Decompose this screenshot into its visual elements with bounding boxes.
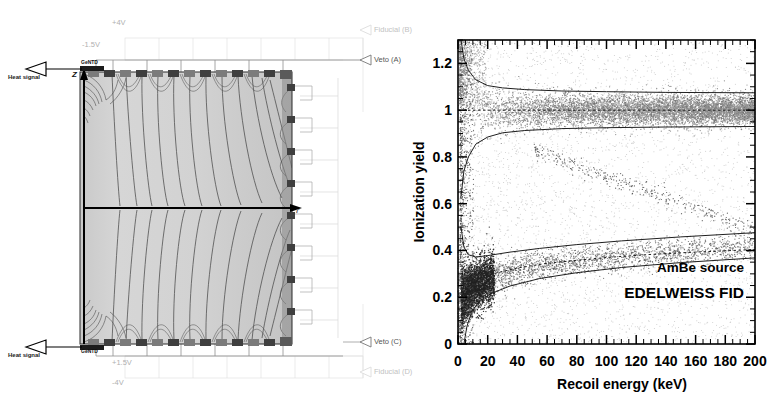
scatter-point <box>534 123 535 124</box>
scatter-point <box>542 273 543 274</box>
scatter-point <box>486 272 487 273</box>
scatter-point <box>571 62 572 63</box>
scatter-point <box>693 207 694 208</box>
scatter-point <box>492 311 493 312</box>
scatter-point <box>473 202 474 203</box>
scatter-point <box>646 104 647 105</box>
scatter-point <box>464 42 465 43</box>
scatter-point <box>464 94 465 95</box>
scatter-point <box>479 243 480 244</box>
scatter-point <box>502 102 503 103</box>
scatter-point <box>745 127 746 128</box>
scatter-point <box>486 303 487 304</box>
scatter-point <box>579 252 580 253</box>
scatter-point <box>460 316 461 317</box>
scatter-point <box>585 97 586 98</box>
scatter-point <box>464 124 465 125</box>
scatter-point <box>634 230 635 231</box>
scatter-point <box>585 106 586 107</box>
scatter-point <box>604 255 605 256</box>
scatter-point <box>658 104 659 105</box>
scatter-point <box>708 84 709 85</box>
scatter-point <box>478 72 479 73</box>
scatter-point <box>478 146 479 147</box>
scatter-point <box>500 187 501 188</box>
scatter-point <box>518 119 519 120</box>
scatter-point <box>566 111 567 112</box>
scatter-point <box>533 233 534 234</box>
scatter-point <box>689 101 690 102</box>
scatter-point <box>711 107 712 108</box>
scatter-point <box>523 269 524 270</box>
scatter-point <box>486 238 487 239</box>
scatter-point <box>459 93 460 94</box>
scatter-point <box>465 195 466 196</box>
scatter-point <box>582 268 583 269</box>
scatter-point <box>525 111 526 112</box>
scatter-point <box>662 106 663 107</box>
scatter-point <box>594 125 595 126</box>
scatter-point <box>500 317 501 318</box>
scatter-point <box>595 323 596 324</box>
scatter-point <box>461 103 462 104</box>
scatter-point <box>459 71 460 72</box>
scatter-point <box>481 280 482 281</box>
scatter-point <box>715 116 716 117</box>
scatter-point <box>655 99 656 100</box>
scatter-point <box>597 268 598 269</box>
scatter-point <box>647 106 648 107</box>
scatter-point <box>475 119 476 120</box>
scatter-point <box>706 307 707 308</box>
scatter-point <box>536 56 537 57</box>
scatter-point <box>635 75 636 76</box>
scatter-point <box>460 152 461 153</box>
scatter-point <box>632 256 633 257</box>
scatter-point <box>490 115 491 116</box>
scatter-point <box>504 210 505 211</box>
scatter-point <box>648 98 649 99</box>
scatter-point <box>463 117 464 118</box>
scatter-point <box>461 298 462 299</box>
scatter-point <box>530 274 531 275</box>
scatter-point <box>712 254 713 255</box>
scatter-point <box>601 170 602 171</box>
scatter-point <box>533 114 534 115</box>
scatter-point <box>510 179 511 180</box>
scatter-point <box>460 166 461 167</box>
scatter-point <box>746 230 747 231</box>
scatter-point <box>465 291 466 292</box>
scatter-point <box>662 52 663 53</box>
scatter-point <box>598 173 599 174</box>
scatter-point <box>489 226 490 227</box>
scatter-point <box>460 314 461 315</box>
scatter-point <box>736 116 737 117</box>
scatter-point <box>738 66 739 67</box>
scatter-point <box>506 53 507 54</box>
scatter-point <box>677 74 678 75</box>
scatter-point <box>738 151 739 152</box>
scatter-point <box>537 160 538 161</box>
scatter-point <box>580 84 581 85</box>
scatter-point <box>526 255 527 256</box>
scatter-point <box>677 248 678 249</box>
scatter-point <box>555 245 556 246</box>
scatter-point <box>465 310 466 311</box>
scatter-point <box>506 266 507 267</box>
scatter-point <box>570 161 571 162</box>
scatter-point <box>709 111 710 112</box>
scatter-point <box>607 183 608 184</box>
scatter-point <box>675 171 676 172</box>
scatter-point <box>691 103 692 104</box>
scatter-point <box>498 100 499 101</box>
scatter-point <box>583 69 584 70</box>
scatter-point <box>460 130 461 131</box>
scatter-point <box>491 84 492 85</box>
scatter-point <box>717 109 718 110</box>
scatter-point <box>536 100 537 101</box>
scatter-point <box>693 249 694 250</box>
scatter-point <box>602 101 603 102</box>
scatter-point <box>695 49 696 50</box>
scatter-point <box>595 172 596 173</box>
scatter-point <box>721 171 722 172</box>
scatter-point <box>559 291 560 292</box>
